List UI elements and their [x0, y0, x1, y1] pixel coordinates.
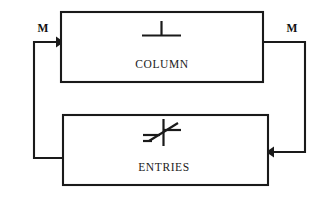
flow-label-m-left: M: [38, 22, 49, 34]
feedback-left-line: [34, 42, 63, 158]
block-diagram: COLUMN ENTRIES M M: [0, 0, 319, 200]
entries-box-outline: [63, 115, 268, 185]
connection-feedback-left: [34, 37, 64, 159]
flow-label-m-right: M: [287, 22, 298, 34]
entries-label: ENTRIES: [138, 161, 189, 173]
feedback-right-line: [263, 42, 305, 152]
diagram-canvas: COLUMN ENTRIES M M: [0, 0, 319, 200]
block-entries[interactable]: ENTRIES: [63, 115, 268, 185]
block-column[interactable]: COLUMN: [61, 12, 263, 82]
connection-feedback-right: [263, 42, 305, 158]
column-label: COLUMN: [135, 58, 189, 70]
